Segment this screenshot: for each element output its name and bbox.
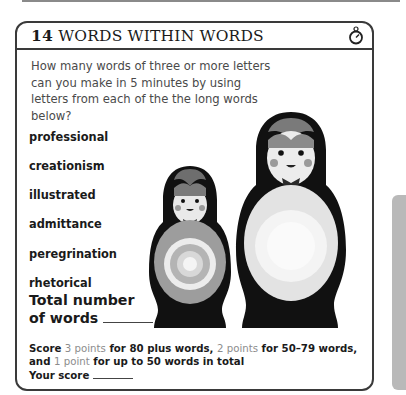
small-doll-icon — [149, 166, 231, 328]
large-doll-icon — [236, 112, 346, 328]
